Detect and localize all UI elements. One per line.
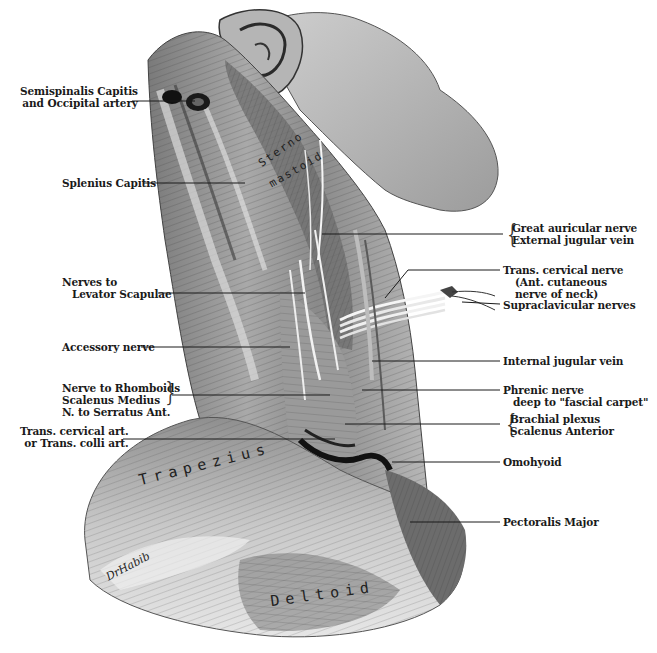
label-brachial-scalenus: Brachial plexus Scalenus Anterior xyxy=(510,413,614,437)
anatomy-figure: Sterno mastoid Trapezius Deltoid DrHabib… xyxy=(0,0,657,653)
label-internal-jugular: Internal jugular vein xyxy=(503,355,623,367)
label-omohyoid: Omohyoid xyxy=(503,456,562,468)
label-accessory: Accessory nerve xyxy=(62,341,155,353)
label-levator-nerves: Nerves to Levator Scapulae xyxy=(62,276,172,300)
label-supraclavicular: Supraclavicular nerves xyxy=(503,299,636,311)
brace-rhomboids: { xyxy=(165,380,175,404)
label-trans-cervical-nerve: Trans. cervical nerve (Ant. cutaneous ne… xyxy=(503,264,623,300)
label-pectoralis: Pectoralis Major xyxy=(503,516,599,528)
label-trans-cervical-art: Trans. cervical art. or Trans. colli art… xyxy=(20,425,129,449)
label-auricular-jugular: Great auricular nerve External jugular v… xyxy=(512,222,637,246)
label-rhomboids-group: Nerve to Rhomboids Scalenus Medius N. to… xyxy=(62,382,180,418)
label-phrenic: Phrenic nerve deep to "fascial carpet" xyxy=(503,384,648,408)
label-semispinalis: Semispinalis Capitis and Occipital arter… xyxy=(20,85,138,109)
label-splenius: Splenius Capitis xyxy=(62,177,156,189)
